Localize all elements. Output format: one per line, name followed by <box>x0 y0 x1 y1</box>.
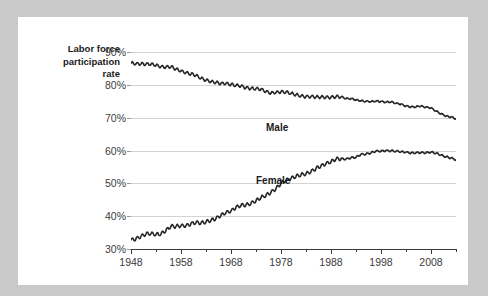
series-label-male: Male <box>266 122 288 133</box>
x-tick-1958 <box>181 249 182 254</box>
chart-card: Labor force participation rate 30%40%50%… <box>18 17 468 285</box>
x-tick-1978 <box>281 249 282 254</box>
x-tick-minor-2013 <box>456 249 457 252</box>
x-tick-minor-1973 <box>256 249 257 252</box>
y-tick-label-80: 80% <box>105 79 126 91</box>
x-tick-minor-1983 <box>306 249 307 252</box>
x-tick-minor-1953 <box>156 249 157 252</box>
x-tick-label-1948: 1948 <box>119 256 142 268</box>
line-series-female <box>131 150 456 241</box>
line-series-male <box>131 62 456 120</box>
x-tick-minor-2003 <box>406 249 407 252</box>
x-tick-1998 <box>381 249 382 254</box>
x-tick-1988 <box>331 249 332 254</box>
y-tick-label-70: 70% <box>105 112 126 124</box>
x-tick-label-1998: 1998 <box>369 256 392 268</box>
y-tick-label-30: 30% <box>105 243 126 255</box>
series-label-female: Female <box>256 175 290 186</box>
y-tick-label-40: 40% <box>105 210 126 222</box>
x-tick-label-1968: 1968 <box>219 256 242 268</box>
x-tick-minor-1993 <box>356 249 357 252</box>
x-tick-label-2008: 2008 <box>419 256 442 268</box>
y-tick-label-60: 60% <box>105 145 126 157</box>
screenshot-page: Labor force participation rate 30%40%50%… <box>0 0 488 296</box>
x-tick-2008 <box>431 249 432 254</box>
x-tick-label-1978: 1978 <box>269 256 292 268</box>
y-tick-label-50: 50% <box>105 177 126 189</box>
x-tick-minor-1963 <box>206 249 207 252</box>
x-tick-label-1988: 1988 <box>319 256 342 268</box>
x-tick-label-1958: 1958 <box>169 256 192 268</box>
x-tick-1968 <box>231 249 232 254</box>
series-lines <box>131 52 456 249</box>
labor-force-participation-chart: Labor force participation rate 30%40%50%… <box>18 17 468 285</box>
plot-area: 30%40%50%60%70%80%90% <box>131 52 456 249</box>
x-tick-1948 <box>131 249 132 254</box>
y-tick-label-90: 90% <box>105 46 126 58</box>
x-axis-line <box>131 249 456 250</box>
